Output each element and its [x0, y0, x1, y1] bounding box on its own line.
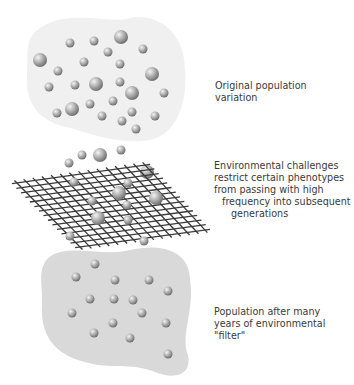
- sphere: [126, 334, 135, 343]
- sphere: [109, 97, 118, 106]
- sphere: [140, 237, 149, 246]
- sphere: [88, 197, 97, 206]
- filtered-population-label: Population after many years of environme…: [214, 306, 325, 342]
- sphere: [90, 329, 99, 338]
- sphere: [110, 295, 119, 304]
- sphere: [116, 78, 125, 87]
- sphere: [123, 201, 132, 210]
- sphere: [124, 179, 133, 188]
- label-line: "filter": [214, 330, 325, 342]
- sphere: [139, 45, 148, 54]
- sphere: [109, 319, 118, 328]
- sphere: [90, 37, 99, 46]
- sphere: [145, 67, 159, 81]
- sphere: [93, 148, 107, 162]
- sphere: [78, 151, 87, 160]
- sphere: [112, 186, 126, 200]
- environmental-filter-grid: [12, 162, 210, 249]
- sphere: [132, 125, 141, 134]
- label-line: restrict certain phenotypes: [214, 172, 351, 184]
- label-line: from passing with high: [214, 184, 351, 196]
- sphere: [160, 89, 169, 98]
- sphere: [162, 319, 171, 328]
- sphere: [33, 53, 47, 67]
- sphere: [91, 260, 100, 269]
- sphere: [86, 295, 95, 304]
- sphere: [86, 100, 95, 109]
- sphere: [151, 112, 160, 121]
- sphere: [111, 276, 120, 285]
- sphere: [104, 48, 113, 57]
- sphere: [65, 102, 79, 116]
- sphere: [145, 276, 154, 285]
- sphere: [118, 117, 127, 126]
- original-population-blob: [27, 17, 186, 141]
- sphere: [80, 58, 89, 67]
- sphere: [98, 112, 107, 121]
- sphere: [53, 109, 62, 118]
- environmental-challenge-label: Environmental challenges restrict certai…: [214, 160, 351, 220]
- sphere: [164, 287, 173, 296]
- sphere: [114, 30, 128, 44]
- label-line: Original population: [215, 80, 307, 92]
- sphere: [68, 309, 77, 318]
- sphere: [91, 211, 105, 225]
- label-line: Environmental challenges: [214, 160, 351, 172]
- sphere: [45, 83, 54, 92]
- label-line: generations: [214, 208, 351, 220]
- sphere: [164, 350, 173, 359]
- label-line: Population after many: [214, 306, 325, 318]
- sphere: [70, 178, 79, 187]
- sphere: [149, 191, 163, 205]
- sphere: [129, 296, 138, 305]
- sphere: [65, 159, 74, 168]
- sphere: [66, 232, 75, 241]
- label-line: years of environmental: [214, 318, 325, 330]
- sphere: [138, 309, 147, 318]
- original-population-label: Original population variation: [215, 80, 307, 104]
- sphere: [71, 81, 80, 90]
- sphere: [72, 273, 81, 282]
- sphere: [66, 39, 75, 48]
- sphere: [89, 77, 103, 91]
- sphere: [117, 146, 126, 155]
- sphere: [125, 86, 139, 100]
- sphere: [124, 216, 133, 225]
- sphere: [128, 108, 137, 117]
- sphere: [116, 60, 125, 69]
- label-line: variation: [215, 92, 307, 104]
- sphere: [54, 67, 63, 76]
- label-line: frequency into subsequent: [214, 196, 351, 208]
